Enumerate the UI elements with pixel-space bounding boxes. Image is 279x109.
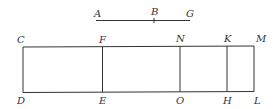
label-k: K xyxy=(223,33,232,44)
label-n: N xyxy=(175,33,186,44)
segment-ag: A B G xyxy=(93,6,194,23)
geometric-diagram: A B G C F N K M D E O H L xyxy=(0,0,279,109)
label-h: H xyxy=(222,95,232,106)
label-l: L xyxy=(253,95,261,106)
label-o: O xyxy=(176,95,184,106)
label-a: A xyxy=(93,8,101,19)
label-b: B xyxy=(150,6,158,17)
label-e: E xyxy=(98,95,107,106)
label-m: M xyxy=(255,33,267,44)
rectangle-cdlm: C F N K M D E O H L xyxy=(16,33,267,106)
label-f: F xyxy=(98,34,107,45)
label-d: D xyxy=(16,95,25,106)
line-cm xyxy=(23,46,254,47)
label-g: G xyxy=(186,8,194,19)
line-dl xyxy=(23,92,254,93)
label-c: C xyxy=(17,34,25,45)
